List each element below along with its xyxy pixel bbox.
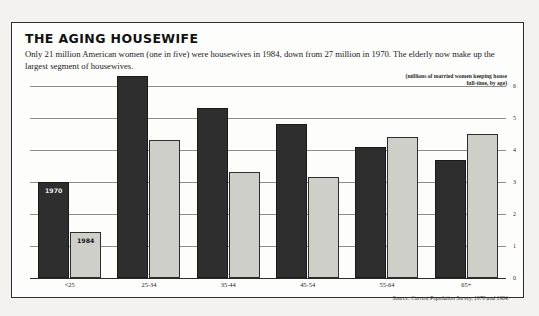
bar-1970-25-34[interactable]	[117, 76, 148, 278]
x-category-45-54: 45-54	[276, 281, 340, 288]
chart-subtitle: Only 21 million American women (one in f…	[25, 49, 511, 72]
bar-1984-45-54[interactable]	[308, 177, 339, 278]
bar-1970-65+[interactable]	[435, 160, 466, 278]
page-title: THE AGING HOUSEWIFE	[25, 31, 198, 46]
bar-1984-25-34[interactable]	[149, 140, 180, 278]
bar-1970-45-54[interactable]	[276, 124, 307, 278]
bar-group	[355, 86, 418, 278]
y-tick-label-1: 1	[513, 243, 516, 249]
bar-1970-55-64[interactable]	[355, 147, 386, 278]
bar-1984-<25[interactable]: 1984	[70, 232, 101, 278]
series-label-1970: 1970	[39, 187, 68, 194]
bar-group	[117, 86, 180, 278]
bar-group	[276, 86, 339, 278]
chart-card: THE AGING HOUSEWIFE Only 21 million Amer…	[11, 22, 524, 298]
y-tick-label-5: 5	[513, 115, 516, 121]
x-axis-category-labels: <2525-3435-4445-5455-6465+	[30, 281, 506, 288]
bar-1984-35-44[interactable]	[229, 172, 260, 278]
y-tick-label-2: 2	[513, 211, 516, 217]
gridline-0	[30, 278, 506, 279]
x-category-<25: <25	[38, 281, 102, 288]
y-tick-label-3: 3	[513, 179, 516, 185]
bar-group: 19701984	[38, 86, 101, 278]
bar-group	[197, 86, 260, 278]
y-axis-note-line-1: (millions of married women keeping house	[317, 73, 507, 80]
bar-1984-55-64[interactable]	[387, 137, 418, 278]
bar-1970-<25[interactable]: 1970	[38, 182, 69, 278]
x-category-65+: 65+	[434, 281, 498, 288]
x-category-25-34: 25-34	[117, 281, 181, 288]
screenshot-root: THE AGING HOUSEWIFE Only 21 million Amer…	[0, 0, 539, 316]
bar-1970-35-44[interactable]	[197, 108, 228, 278]
y-tick-label-6: 6	[513, 83, 516, 89]
y-tick-label-0: 0	[513, 275, 516, 281]
source-note: Source: Current Population Survey, 1970 …	[393, 295, 509, 301]
y-axis-note: (millions of married women keeping house…	[317, 73, 507, 86]
x-category-35-44: 35-44	[196, 281, 260, 288]
y-tick-label-4: 4	[513, 147, 516, 153]
bar-1984-65+[interactable]	[467, 134, 498, 278]
bar-group	[435, 86, 498, 278]
x-category-55-64: 55-64	[355, 281, 419, 288]
series-label-1984: 1984	[71, 237, 100, 244]
bar-groups: 19701984	[30, 86, 506, 278]
plot-area: 0123456 19701984	[30, 86, 506, 278]
